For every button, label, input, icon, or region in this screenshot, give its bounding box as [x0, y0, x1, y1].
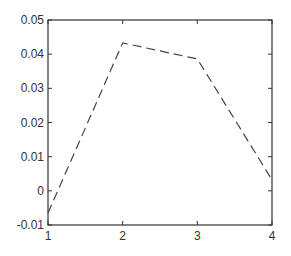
y-tick-label: -0.01: [17, 218, 45, 232]
y-tick-label: 0.02: [21, 116, 45, 130]
axis-ticks: [48, 20, 272, 225]
data-series: [48, 43, 272, 213]
x-tick-label: 1: [45, 229, 52, 243]
tick-labels: -0.0100.010.020.030.040.051234: [17, 13, 276, 243]
line-chart: -0.0100.010.020.030.040.051234: [0, 0, 291, 256]
x-tick-label: 3: [194, 229, 201, 243]
y-tick-label: 0.05: [21, 13, 45, 27]
plot-frame: [48, 20, 272, 225]
y-tick-label: 0.04: [21, 47, 45, 61]
x-tick-label: 2: [119, 229, 126, 243]
axes-box: [48, 20, 272, 225]
series-line: [48, 43, 272, 213]
y-tick-label: 0.03: [21, 81, 45, 95]
x-tick-label: 4: [269, 229, 276, 243]
y-tick-label: 0.01: [21, 150, 45, 164]
y-tick-label: 0: [37, 184, 44, 198]
